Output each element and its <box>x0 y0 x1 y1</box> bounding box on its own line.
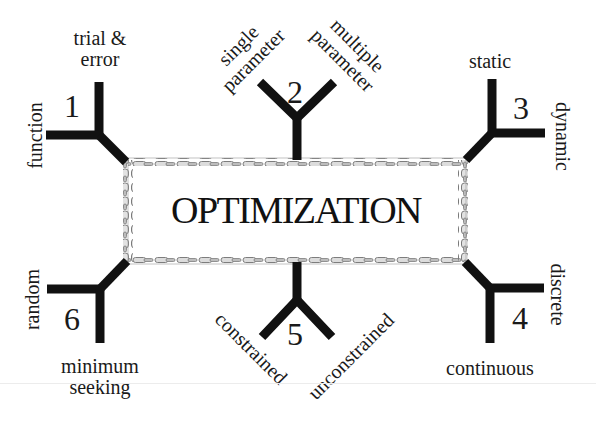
branch-4-option-discrete: discrete <box>547 255 568 335</box>
label-line: seeking <box>45 377 155 398</box>
chain-right <box>458 160 468 262</box>
branch-3-option-dynamic: dynamic <box>552 97 573 177</box>
branch-6-option-minimum-seeking: minimum seeking <box>45 356 155 398</box>
label-line: minimum <box>45 356 155 377</box>
branch-1-option-trial-error: trial & error <box>60 28 140 70</box>
branch-6-option-random: random <box>22 260 43 340</box>
branch-4-icon <box>465 262 544 343</box>
branch-3-icon <box>466 79 545 160</box>
diagram-title: OPTIMIZATION <box>136 190 456 230</box>
scan-artifact-line <box>0 383 596 384</box>
branch-4-number: 4 <box>512 302 528 334</box>
branch-3-number: 3 <box>513 92 529 124</box>
label-line: error <box>60 49 140 70</box>
branch-5-number: 5 <box>287 318 303 350</box>
branch-6-icon <box>47 261 127 343</box>
branch-1-icon <box>46 82 126 162</box>
branch-1-number: 1 <box>64 90 80 122</box>
branch-2-number: 2 <box>287 76 303 108</box>
optimization-diagram: OPTIMIZATION 1 trial & error function 2 … <box>0 0 596 426</box>
branch-6-number: 6 <box>64 303 80 335</box>
branch-1-option-function: function <box>25 96 46 176</box>
branch-4-option-continuous: continuous <box>430 358 550 379</box>
branch-3-option-static: static <box>455 51 525 72</box>
label-line: trial & <box>60 28 140 49</box>
